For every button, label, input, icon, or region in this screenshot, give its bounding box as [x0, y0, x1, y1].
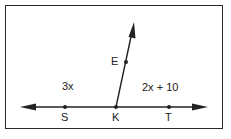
- right-arrowhead-icon: [192, 104, 208, 111]
- point-s: [63, 105, 67, 109]
- label-k: K: [112, 112, 119, 123]
- label-s: S: [61, 112, 68, 123]
- point-k: [114, 105, 118, 109]
- point-e: [124, 60, 128, 64]
- angle-label-right: 2x + 10: [142, 82, 178, 93]
- label-t: T: [165, 112, 172, 123]
- ray-arrowhead-icon: [129, 22, 136, 39]
- ray-ke: [116, 32, 132, 107]
- label-e: E: [111, 56, 118, 67]
- point-t: [167, 105, 171, 109]
- angle-label-left: 3x: [62, 81, 74, 92]
- left-arrowhead-icon: [20, 104, 36, 111]
